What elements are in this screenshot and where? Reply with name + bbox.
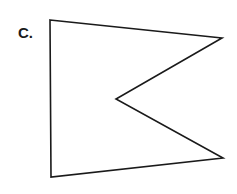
pentagon-figure [0, 0, 237, 194]
concave-pentagon-shape [50, 20, 223, 177]
